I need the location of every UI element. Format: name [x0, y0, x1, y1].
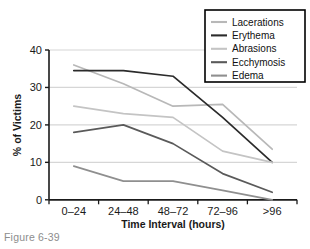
- figure-container: 010203040 0–2424–4848–7272–96>96 % of Vi…: [0, 0, 310, 249]
- y-tick-label: 30: [30, 81, 42, 93]
- y-tick-label: 20: [30, 119, 42, 131]
- legend-label-erythema: Erythema: [232, 30, 275, 41]
- x-tick-label: 48–72: [158, 205, 189, 217]
- legend-label-abrasions: Abrasions: [232, 43, 276, 54]
- x-axis-title: Time Interval (hours): [121, 218, 225, 230]
- x-tick-label: 24–48: [108, 205, 139, 217]
- legend-label-edema: Edema: [232, 70, 264, 81]
- y-axis-title: % of Victims: [11, 94, 23, 156]
- x-tick-label: 72–96: [207, 205, 238, 217]
- legend-label-ecchymosis: Ecchymosis: [232, 57, 285, 68]
- chart-legend: LacerationsErythemaAbrasionsEcchymosisEd…: [205, 10, 305, 82]
- y-tick-label: 0: [36, 194, 42, 206]
- x-tick-label: >96: [263, 205, 282, 217]
- line-chart: 010203040 0–2424–4848–7272–96>96 % of Vi…: [0, 0, 310, 249]
- y-tick-label: 40: [30, 44, 42, 56]
- figure-caption: Figure 6-39: [4, 231, 60, 243]
- legend-label-lacerations: Lacerations: [232, 17, 284, 28]
- y-tick-label: 10: [30, 156, 42, 168]
- x-tick-label: 0–24: [62, 205, 86, 217]
